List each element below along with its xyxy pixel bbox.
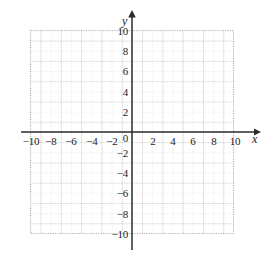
y-tick-label-neg4: −4 (117, 168, 128, 179)
y-tick-label-neg8: −8 (117, 209, 128, 220)
x-tick-label-neg2: −2 (106, 136, 117, 147)
y-tick-label-6: 6 (123, 66, 128, 77)
x-tick-label-2: 2 (150, 136, 155, 147)
origin-label: 0 (123, 133, 128, 144)
x-tick-label-6: 6 (190, 136, 195, 147)
y-tick-label-neg6: −6 (117, 188, 128, 199)
x-tick-label-neg4: −4 (86, 136, 97, 147)
y-tick-label-4: 4 (123, 87, 128, 98)
x-tick-label-8: 8 (211, 136, 216, 147)
coordinate-grid-svg (0, 0, 275, 267)
y-tick-label-neg2: −2 (117, 148, 128, 159)
coordinate-plane-figure: 10 8 6 4 2 0 −2 −4 −6 −8 −10 −10 −8 −6 −… (0, 0, 275, 267)
y-tick-label-2: 2 (123, 107, 128, 118)
y-axis-label: y (122, 15, 127, 27)
x-axis-label: x (252, 133, 257, 145)
x-tick-label-10: 10 (230, 136, 241, 147)
x-tick-label-neg6: −6 (65, 136, 76, 147)
x-tick-label-neg10: −10 (23, 136, 40, 147)
x-tick-label-neg8: −8 (45, 136, 56, 147)
y-tick-label-8: 8 (123, 46, 128, 57)
y-tick-label-neg10: −10 (111, 229, 128, 240)
x-tick-label-4: 4 (170, 136, 175, 147)
